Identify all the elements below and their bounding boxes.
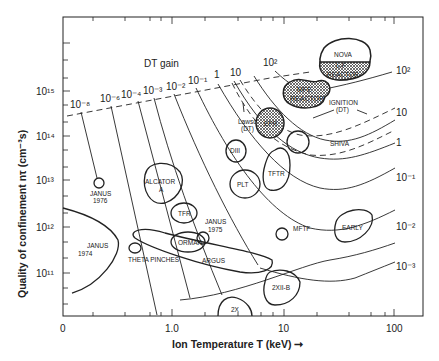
svg-text:(DT): (DT)	[336, 106, 349, 114]
gain-label-1e-2: 10⁻²	[166, 81, 186, 92]
svg-text:REACTOR: REACTOR	[290, 95, 324, 102]
x-axis-label: Ion Temperature T (keV) ➞	[172, 338, 303, 350]
x-tick-1: 1.0	[165, 323, 179, 334]
right-gain-1e2: 10²	[396, 65, 411, 76]
y-tick-1e11: 10¹¹	[36, 268, 54, 279]
region-tfr: TFR	[171, 203, 197, 223]
svg-text:IGNITION: IGNITION	[329, 99, 358, 106]
region-mftf: EARLY	[335, 210, 373, 242]
region-epr: EPR	[256, 108, 284, 138]
svg-text:TFTR: TFTR	[268, 170, 285, 177]
region-early-tokomaks: JANUS 1974	[63, 208, 118, 293]
gain-label-1e-8: 10⁻⁸	[70, 99, 90, 110]
x-tick-0: 0	[60, 323, 66, 334]
svg-text:A: A	[159, 186, 164, 193]
region-janus-1976: JANUS 1976	[90, 178, 112, 204]
x-tick-10: 10	[278, 323, 290, 334]
svg-text:1974: 1974	[78, 250, 93, 257]
svg-text:L-F: L-F	[336, 62, 346, 69]
region-diii: DIII	[226, 140, 246, 162]
svg-text:EPR: EPR	[264, 120, 278, 127]
y-tick-1e14: 10¹⁴	[36, 131, 55, 142]
region-ormak: ORMAK	[171, 232, 205, 252]
right-gain-10: 10	[396, 107, 408, 118]
gain-label-10: 10	[230, 67, 242, 78]
region-2x: 2X	[218, 297, 252, 316]
svg-text:JANUS: JANUS	[205, 218, 227, 225]
svg-text:JANUS: JANUS	[87, 242, 109, 249]
gain-label-1e2: 10²	[263, 57, 278, 68]
top-ticks	[93, 17, 394, 24]
svg-text:DIII: DIII	[230, 147, 240, 154]
svg-text:PLT: PLT	[237, 181, 248, 188]
y-tick-1e15: 10¹⁵	[36, 86, 55, 97]
svg-text:ORMAK: ORMAK	[178, 239, 203, 246]
right-gain-1e-3: 10⁻³	[396, 261, 416, 272]
svg-text:1976: 1976	[93, 197, 108, 204]
left-ticks	[63, 43, 70, 304]
gain-label-1e-4: 10⁻⁴	[121, 89, 141, 100]
svg-text:TFR: TFR	[178, 210, 191, 217]
right-gain-1e-1: 10⁻¹	[396, 172, 416, 183]
y-axis-label: Quality of confinement nτ (cm⁻³s)	[16, 130, 28, 298]
gain-label-1e-1: 10⁻¹	[188, 75, 208, 86]
dt-gain-header: DT gain	[144, 58, 179, 69]
gain-label-1e-6: 10⁻⁶	[100, 93, 120, 104]
svg-text:2XII-B: 2XII-B	[272, 284, 290, 291]
region-mfe-reactor: MFE REACTOR	[283, 79, 330, 107]
gain-label-1e-3: 10⁻³	[143, 85, 163, 96]
right-gain-1: 1	[396, 137, 402, 148]
svg-text:1975: 1975	[208, 226, 223, 233]
x-tick-100: 100	[386, 323, 403, 334]
gain-label-1: 1	[214, 69, 220, 80]
region-tftr: TFTR	[263, 148, 290, 190]
svg-text:ARGUS: ARGUS	[202, 257, 226, 264]
region-theta-pinches: ARGUS	[133, 229, 272, 272]
confinement-vs-temperature-diagram: 10¹⁵ 10¹⁴ 10¹³ 10¹² 10¹¹ 0 1.0 10 100 Qu…	[0, 0, 439, 361]
region-plt: PLT	[230, 170, 260, 198]
svg-text:2X: 2X	[231, 306, 240, 313]
svg-text:THETA PINCHES: THETA PINCHES	[128, 256, 180, 263]
region-2xii-b: 2XII-B	[264, 270, 300, 305]
y-tick-1e12: 10¹²	[36, 222, 54, 233]
region-argus-1976: MFTF	[276, 225, 310, 240]
region-nova-lf-reactor: NOVA L-F REACTOR	[320, 38, 371, 80]
svg-text:JANUS: JANUS	[90, 190, 112, 197]
svg-text:NOVA: NOVA	[334, 51, 353, 58]
svg-text:REACTOR: REACTOR	[327, 71, 359, 78]
bottom-ticks	[93, 309, 394, 316]
svg-text:EARLY: EARLY	[342, 224, 363, 231]
svg-text:(DT): (DT)	[241, 125, 254, 133]
right-gain-1e-2: 10⁻²	[396, 221, 416, 232]
y-tick-1e13: 10¹³	[36, 175, 54, 186]
svg-text:MFE: MFE	[297, 86, 312, 93]
svg-text:MFTF: MFTF	[293, 225, 310, 232]
svg-text:ALCATOR: ALCATOR	[145, 178, 175, 185]
svg-text:SHIVA: SHIVA	[330, 140, 350, 147]
